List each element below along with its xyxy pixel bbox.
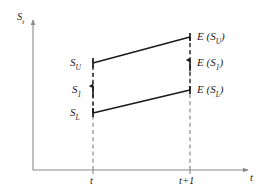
y-axis-label: St [17,12,24,25]
label-sl-base: S [70,106,76,118]
label-s1-base: S [72,83,78,95]
label-su-base: S [70,56,76,68]
upper-trajectory-line [93,37,190,63]
label-esl-post: ) [220,83,224,95]
y-axis-label-sub: t [22,18,24,26]
label-esl-sub: L [216,90,220,99]
label-esl-base: E (S [197,83,216,95]
diagram-canvas: St t t t+1 SU S1 SL E (SU) E (S1) E (SL) [0,0,265,191]
label-es1-post: ) [219,56,223,68]
label-es1-sub: 1 [216,63,220,72]
label-esu-sub: U [216,37,221,46]
label-s1-sub: 1 [78,90,82,99]
label-esu: E (SU) [197,31,225,45]
x-axis-label: t [250,173,253,184]
label-sl-sub: L [76,113,80,122]
label-esl: E (SL) [197,84,223,98]
xtick-label-t-plus-1: t+1 [179,176,194,187]
label-su-sub: U [76,63,81,72]
xtick-label-t: t [90,176,93,187]
label-esu-base: E (S [197,30,216,42]
label-es1: E (S1) [197,57,223,71]
label-sl: SL [70,107,80,121]
label-es1-base: E (S [197,56,216,68]
label-su: SU [70,57,81,71]
diagram-graphics [0,0,265,191]
lower-trajectory-line [93,90,190,113]
label-s1: S1 [72,84,81,98]
label-esu-post: ) [221,30,225,42]
